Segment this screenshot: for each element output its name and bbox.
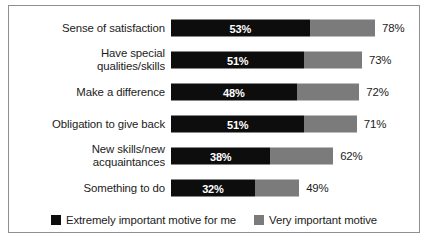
bar-segment-very-important bbox=[310, 20, 375, 37]
category-label: Have specialqualities/skills bbox=[13, 47, 165, 72]
bar-segment-extremely-important: 38% bbox=[171, 148, 270, 165]
bar-segment-very-important bbox=[270, 148, 333, 165]
category-label-line: Obligation to give back bbox=[13, 118, 165, 131]
bar-value-label: 51% bbox=[227, 118, 248, 130]
stacked-bar: 48% bbox=[171, 84, 359, 101]
category-label-line: qualities/skills bbox=[13, 60, 165, 73]
chart-row: Make a difference48%72% bbox=[9, 76, 419, 108]
legend-item: Extremely important motive for me bbox=[51, 214, 236, 226]
chart-row: Sense of satisfaction53%78% bbox=[9, 12, 419, 44]
stacked-bar: 51% bbox=[171, 52, 362, 69]
bar-value-label: 53% bbox=[230, 22, 251, 34]
legend-label: Very important motive bbox=[269, 214, 377, 226]
category-label-line: New skills/new bbox=[13, 143, 165, 156]
chart-frame: Sense of satisfaction53%78%Have specialq… bbox=[8, 5, 420, 233]
bar-value-label: 38% bbox=[210, 150, 231, 162]
bar-segment-extremely-important: 48% bbox=[171, 84, 297, 101]
bar-total-label: 49% bbox=[306, 182, 329, 194]
bar-segment-very-important bbox=[304, 116, 356, 133]
stacked-bar: 38% bbox=[171, 148, 333, 165]
legend-swatch-icon bbox=[254, 215, 264, 225]
bar-total-label: 78% bbox=[382, 22, 405, 34]
bar-value-label: 32% bbox=[202, 182, 223, 194]
category-label: Obligation to give back bbox=[13, 118, 165, 131]
bar-segment-extremely-important: 51% bbox=[171, 52, 304, 69]
category-label-line: Something to do bbox=[13, 182, 165, 195]
bar-value-label: 48% bbox=[223, 86, 244, 98]
bar-segment-very-important bbox=[297, 84, 360, 101]
bar-segment-very-important bbox=[304, 52, 362, 69]
chart-row: Have specialqualities/skills51%73% bbox=[9, 44, 419, 76]
bar-value-label: 51% bbox=[227, 54, 248, 66]
bar-segment-very-important bbox=[255, 180, 299, 197]
chart-row: Something to do32%49% bbox=[9, 172, 419, 204]
category-label: Make a difference bbox=[13, 86, 165, 99]
legend-swatch-icon bbox=[51, 215, 61, 225]
bar-segment-extremely-important: 53% bbox=[171, 20, 310, 37]
bar-total-label: 71% bbox=[364, 118, 387, 130]
stacked-bar: 32% bbox=[171, 180, 299, 197]
category-label-line: Make a difference bbox=[13, 86, 165, 99]
chart-row: Obligation to give back51%71% bbox=[9, 108, 419, 140]
category-label-line: acquaintances bbox=[13, 156, 165, 169]
category-label: Something to do bbox=[13, 182, 165, 195]
bar-total-label: 72% bbox=[366, 86, 389, 98]
bar-segment-extremely-important: 51% bbox=[171, 116, 304, 133]
category-label-line: Have special bbox=[13, 47, 165, 60]
bar-total-label: 73% bbox=[369, 54, 392, 66]
legend-label: Extremely important motive for me bbox=[66, 214, 236, 226]
bar-segment-extremely-important: 32% bbox=[171, 180, 255, 197]
bar-total-label: 62% bbox=[340, 150, 363, 162]
chart-plot-area: Sense of satisfaction53%78%Have specialq… bbox=[9, 6, 419, 232]
category-label-line: Sense of satisfaction bbox=[13, 22, 165, 35]
stacked-bar: 51% bbox=[171, 116, 357, 133]
stacked-bar: 53% bbox=[171, 20, 375, 37]
legend-item: Very important motive bbox=[254, 214, 377, 226]
chart-legend: Extremely important motive for meVery im… bbox=[9, 214, 419, 226]
category-label: Sense of satisfaction bbox=[13, 22, 165, 35]
chart-row: New skills/newacquaintances38%62% bbox=[9, 140, 419, 172]
category-label: New skills/newacquaintances bbox=[13, 143, 165, 168]
